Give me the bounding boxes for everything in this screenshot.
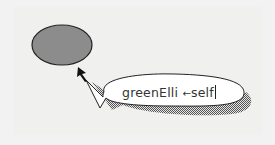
pointer-arrow-icon bbox=[77, 67, 87, 82]
target-variable-label: greenElli bbox=[122, 85, 178, 100]
text-caret bbox=[215, 85, 216, 99]
assign-arrow-icon: ← bbox=[182, 88, 191, 99]
speech-bubble-text[interactable]: greenElli ←self bbox=[122, 85, 216, 100]
gray-ellipse-shape[interactable] bbox=[32, 25, 92, 65]
value-label: self bbox=[191, 85, 214, 100]
drawing-layer bbox=[0, 0, 275, 145]
